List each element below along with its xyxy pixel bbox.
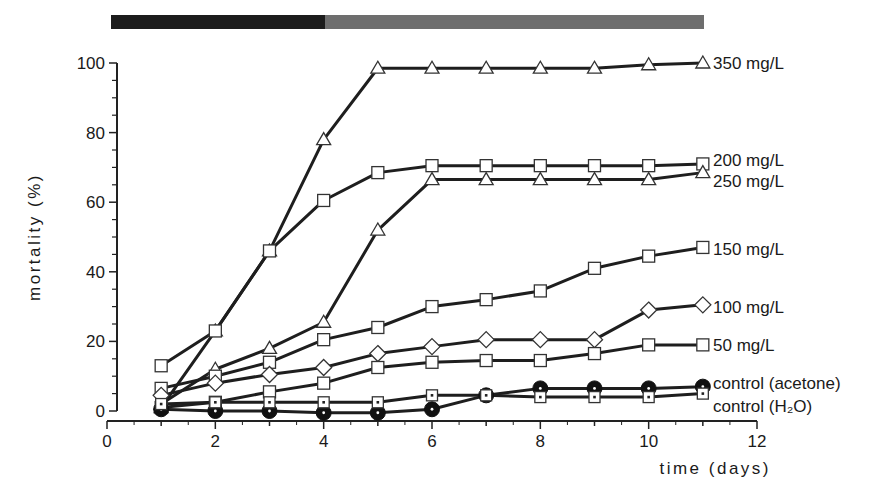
- marker-100-mg-l: [587, 332, 603, 348]
- marker-200-mg-l: [643, 160, 655, 172]
- marker-150-mg-l: [372, 321, 384, 333]
- marker-200-mg-l: [264, 245, 276, 257]
- y-tick-label: 20: [86, 332, 105, 351]
- marker-150-mg-l: [480, 294, 492, 306]
- marker-center-dot: [160, 403, 163, 406]
- marker-100-mg-l: [695, 297, 711, 313]
- marker-center-dot: [214, 401, 217, 404]
- marker-center-dot: [431, 394, 434, 397]
- marker-center-dot: [647, 396, 650, 399]
- marker-100-mg-l: [641, 302, 657, 318]
- marker-50-mg-l: [589, 348, 601, 360]
- marker-200-mg-l: [589, 160, 601, 172]
- marker-150-mg-l: [426, 301, 438, 313]
- marker-50-mg-l: [480, 355, 492, 367]
- x-axis-label: time (days): [659, 459, 771, 478]
- x-tick-label: 0: [102, 432, 111, 451]
- marker-center-dot: [377, 401, 380, 404]
- x-tick-label: 2: [211, 432, 220, 451]
- series-label-control-acetone: control (acetone): [713, 374, 841, 393]
- marker-200-mg-l: [534, 160, 546, 172]
- marker-200-mg-l: [209, 325, 221, 337]
- x-tick-label: 12: [748, 432, 767, 451]
- y-tick-label: 60: [86, 193, 105, 212]
- marker-50-mg-l: [372, 362, 384, 374]
- marker-center-dot: [214, 410, 217, 413]
- mortality-line-chart: 020406080100024681012 350 mg/L200 mg/L25…: [0, 0, 891, 501]
- marker-center-dot: [593, 387, 596, 390]
- series-label-50-mg-l: 50 mg/L: [713, 336, 774, 355]
- marker-200-mg-l: [318, 194, 330, 206]
- series-markers: [153, 56, 711, 420]
- marker-200-mg-l: [155, 360, 167, 372]
- marker-100-mg-l: [532, 332, 548, 348]
- marker-150-mg-l: [534, 285, 546, 297]
- marker-center-dot: [322, 401, 325, 404]
- marker-50-mg-l: [534, 355, 546, 367]
- marker-50-mg-l: [264, 386, 276, 398]
- marker-50-mg-l: [318, 377, 330, 389]
- marker-200-mg-l: [480, 160, 492, 172]
- marker-150-mg-l: [697, 241, 709, 253]
- y-tick-label: 100: [77, 54, 105, 73]
- marker-50-mg-l: [643, 339, 655, 351]
- marker-center-dot: [702, 392, 705, 395]
- marker-center-dot: [485, 394, 488, 397]
- y-tick-label: 80: [86, 124, 105, 143]
- marker-center-dot: [647, 387, 650, 390]
- marker-center-dot: [268, 410, 271, 413]
- marker-center-dot: [539, 396, 542, 399]
- marker-150-mg-l: [318, 334, 330, 346]
- series-label-200-mg-l: 200 mg/L: [713, 151, 784, 170]
- series-labels: 350 mg/L200 mg/L250 mg/L150 mg/L100 mg/L…: [713, 54, 841, 416]
- y-tick-label: 0: [96, 402, 105, 421]
- marker-100-mg-l: [478, 332, 494, 348]
- marker-250-mg-l: [317, 315, 331, 327]
- marker-100-mg-l: [316, 360, 332, 376]
- x-tick-label: 4: [319, 432, 328, 451]
- marker-center-dot: [539, 387, 542, 390]
- marker-center-dot: [322, 411, 325, 414]
- y-axis-label: mortality (%): [25, 173, 44, 301]
- series-label-150-mg-l: 150 mg/L: [713, 240, 784, 259]
- x-tick-label: 10: [639, 432, 658, 451]
- marker-50-mg-l: [426, 356, 438, 368]
- line-200-mg-l: [161, 164, 703, 366]
- x-tick-label: 8: [536, 432, 545, 451]
- series-label-control-h-o: control (H₂O): [713, 397, 812, 416]
- marker-center-dot: [376, 411, 379, 414]
- marker-center-dot: [268, 401, 271, 404]
- marker-200-mg-l: [426, 160, 438, 172]
- marker-100-mg-l: [424, 339, 440, 355]
- series-label-100-mg-l: 100 mg/L: [713, 298, 784, 317]
- marker-150-mg-l: [589, 262, 601, 274]
- marker-150-mg-l: [643, 250, 655, 262]
- marker-center-dot: [431, 408, 434, 411]
- marker-center-dot: [593, 396, 596, 399]
- marker-100-mg-l: [370, 346, 386, 362]
- marker-200-mg-l: [372, 167, 384, 179]
- series-label-350-mg-l: 350 mg/L: [713, 54, 784, 73]
- y-tick-label: 40: [86, 263, 105, 282]
- marker-50-mg-l: [697, 339, 709, 351]
- x-tick-label: 6: [427, 432, 436, 451]
- series-label-250-mg-l: 250 mg/L: [713, 172, 784, 191]
